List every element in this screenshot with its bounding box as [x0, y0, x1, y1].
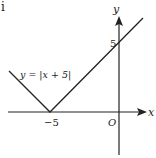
y-intercept-label: 5: [110, 38, 116, 49]
graph-line: [9, 18, 143, 112]
x-axis-label: x: [148, 106, 155, 119]
graph: i y x 5 O −5 y = |x + 5|: [0, 0, 156, 158]
part-label: i: [1, 0, 5, 14]
x-intercept-label: −5: [44, 117, 59, 128]
origin-label: O: [108, 117, 116, 128]
y-axis-label: y: [112, 3, 120, 16]
equation-label: y = |x + 5|: [19, 69, 71, 81]
